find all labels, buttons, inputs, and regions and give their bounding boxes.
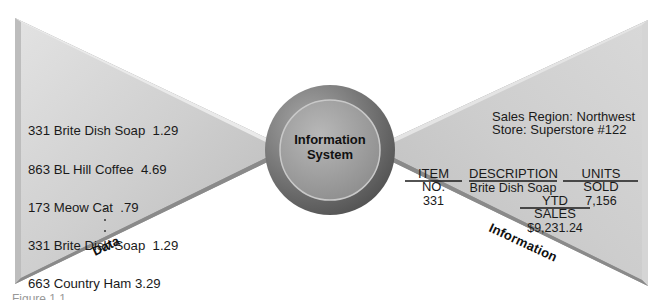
ytd-sales-header: YTD SALES	[520, 194, 590, 220]
raw-data-list: 331 Brite Dish Soap 1.29 863 BL Hill Cof…	[28, 100, 178, 300]
item-no-header: ITEM NO.	[405, 167, 462, 193]
figure-caption: Figure 1.1	[12, 292, 66, 300]
item-no-column: ITEM NO. 331	[405, 167, 462, 208]
description-column: DESCRIPTION Brite Dish Soap	[469, 167, 557, 195]
item-no-value: 331	[405, 195, 462, 208]
center-label-line2: System	[280, 147, 380, 162]
units-sold-header: UNITS SOLD	[563, 167, 639, 193]
information-triangle	[368, 20, 648, 286]
center-label-line1: Information	[280, 132, 380, 147]
description-header: DESCRIPTION	[469, 167, 557, 180]
ytd-sales-block: YTD SALES $9,231.24	[520, 194, 590, 235]
data-record: 331 Brite Dish Soap 1.29	[28, 125, 178, 138]
data-record: 863 BL Hill Coffee 4.69	[28, 164, 178, 177]
data-record: 663 Country Ham 3.29	[28, 278, 178, 291]
report-header: Sales Region: Northwest Store: Superstor…	[492, 110, 635, 136]
ytd-sales-value: $9,231.24	[520, 222, 590, 235]
information-system-label: Information System	[280, 132, 380, 162]
store-name: Store: Superstore #122	[492, 123, 635, 136]
